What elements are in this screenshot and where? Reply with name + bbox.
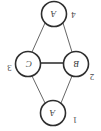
- node-left[interactable]: C: [16, 52, 41, 77]
- node-right-label: B: [73, 59, 79, 69]
- node-top-label: A: [50, 9, 57, 19]
- edge-right-bottom: [61, 76, 72, 103]
- node-bottom[interactable]: A: [41, 101, 66, 126]
- node-bottom-label: A: [49, 108, 56, 118]
- edge-label-2: 2: [90, 72, 95, 82]
- edge-label-1: 1: [73, 115, 78, 125]
- edge-label-3: 3: [7, 63, 12, 73]
- node-right[interactable]: B: [64, 52, 89, 77]
- graph-canvas: A C B A 4 3 2 1: [0, 0, 101, 131]
- edge-label-4: 4: [71, 10, 76, 20]
- node-left-label: C: [25, 59, 32, 69]
- edge-top-right: [63, 23, 72, 52]
- node-top[interactable]: A: [42, 2, 67, 27]
- edge-left-bottom: [32, 76, 45, 103]
- edge-top-left: [32, 23, 45, 52]
- graph-diagram-figure: A C B A 4 3 2 1: [0, 0, 101, 131]
